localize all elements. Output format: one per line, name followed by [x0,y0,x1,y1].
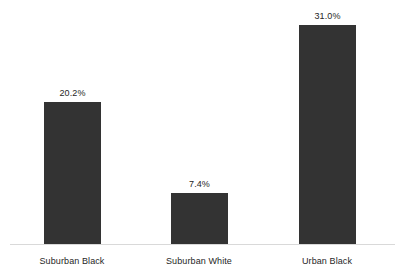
bar-value-label: 7.4% [157,179,242,190]
bar-group: 20.2% [44,0,101,245]
bar [44,102,101,245]
bar-value-label: 31.0% [285,11,370,22]
bar-chart: 20.2% 7.4% 31.0% Suburban Black Suburban… [0,0,405,276]
category-label: Urban Black [267,256,387,267]
category-label: Suburban Black [12,256,132,267]
bar-group: 31.0% [299,0,356,245]
plot-area: 20.2% 7.4% 31.0% [0,0,405,245]
bar-value-label: 20.2% [30,88,115,99]
category-label: Suburban White [139,256,259,267]
bar [299,25,356,245]
category-axis: Suburban Black Suburban White Urban Blac… [0,245,405,276]
bar-group: 7.4% [171,0,228,245]
bar [171,193,228,245]
